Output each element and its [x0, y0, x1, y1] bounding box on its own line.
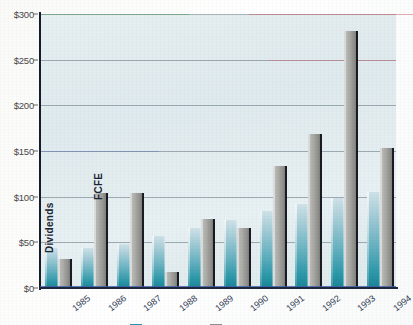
y-axis-tick-50	[33, 242, 38, 243]
x-axis-label-1989: 1989	[213, 293, 235, 313]
x-axis-label-1986: 1986	[106, 293, 128, 313]
bar-group-1992	[295, 14, 320, 288]
bar-group-1989	[188, 14, 213, 288]
x-axis-line-fringe	[40, 286, 396, 287]
series-label-fcfe: FCFE	[93, 173, 104, 200]
bar-dividends-1992	[295, 204, 308, 288]
legend: DividendsFCFE	[0, 321, 413, 325]
bar-group-1990	[224, 14, 249, 288]
bar-group-1993	[331, 14, 356, 288]
bar-group-1986	[81, 14, 106, 288]
y-axis-label-150: $150	[14, 146, 34, 157]
x-axis-label-1991: 1991	[284, 293, 306, 313]
bar-dividends-1988	[152, 236, 165, 288]
bar-dividends-1994	[367, 192, 380, 288]
bar-fcfe-1993	[344, 31, 356, 288]
bar-group-1987	[117, 14, 142, 288]
y-axis: $300$250$200$150$100$50$0	[0, 0, 38, 325]
x-axis-label-1988: 1988	[177, 293, 199, 313]
y-axis-label-50: $50	[19, 237, 34, 248]
x-axis-label-1992: 1992	[320, 293, 342, 313]
y-axis-tick-250	[33, 59, 38, 60]
bar-fcfe-1990	[237, 228, 249, 288]
x-axis-line	[39, 287, 398, 289]
x-axis-label-1990: 1990	[249, 293, 271, 313]
series-label-dividends: Dividends	[44, 202, 55, 253]
bar-fcfe-1994	[380, 148, 392, 288]
bar-group-1988	[152, 14, 177, 288]
y-axis-line	[39, 12, 41, 290]
x-axis-label-1985: 1985	[70, 293, 92, 313]
bar-dividends-1985	[45, 248, 58, 288]
x-axis-label-1987: 1987	[141, 293, 163, 313]
x-axis-label-1993: 1993	[356, 293, 378, 313]
bar-dividends-1987	[117, 244, 130, 288]
bar-dividends-1993	[331, 198, 344, 288]
bar-group-1994	[367, 14, 392, 288]
y-axis-tick-0	[33, 288, 38, 289]
bar-fcfe-1987	[130, 193, 142, 288]
bar-fcfe-1985	[58, 259, 70, 288]
y-axis-tick-100	[33, 196, 38, 197]
bar-fcfe-1992	[308, 134, 320, 288]
bar-dividends-1991	[260, 211, 273, 288]
bar-group-1991	[260, 14, 285, 288]
y-axis-label-250: $250	[14, 54, 34, 65]
y-axis-label-200: $200	[14, 100, 34, 111]
bar-dividends-1990	[224, 220, 237, 289]
y-axis-label-100: $100	[14, 191, 34, 202]
y-axis-label-300: $300	[14, 9, 34, 20]
bar-dividends-1986	[81, 248, 94, 288]
y-axis-tick-150	[33, 151, 38, 152]
bar-fcfe-1986	[94, 193, 106, 288]
bar-dividends-1989	[188, 228, 201, 288]
bar-fcfe-1991	[273, 166, 285, 288]
y-axis-tick-200	[33, 105, 38, 106]
y-axis-tick-300	[33, 14, 38, 15]
chart-page: $300$250$200$150$100$50$0 19851986198719…	[0, 0, 413, 325]
x-axis-label-1994: 1994	[391, 293, 413, 313]
bar-fcfe-1989	[201, 219, 213, 288]
